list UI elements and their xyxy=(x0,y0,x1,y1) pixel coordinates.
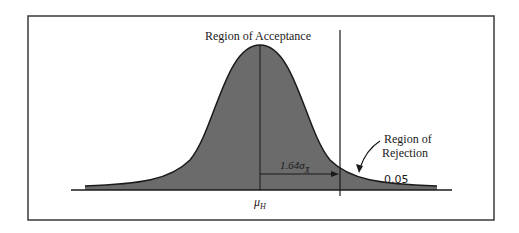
rejection-label-line2: Rejection xyxy=(382,146,428,160)
alpha-label: 0.05 xyxy=(384,173,409,186)
mean-label: μH xyxy=(253,195,267,211)
mean-label-sub: H xyxy=(259,202,267,211)
acceptance-label: Region of Acceptance xyxy=(205,29,311,43)
rejection-pointer-arrow-icon xyxy=(356,164,363,173)
rejection-label-line1: Region of xyxy=(384,132,432,146)
mean-label-main: μ xyxy=(253,195,260,209)
rejection-pointer-line xyxy=(360,141,380,168)
normal-curve-area xyxy=(85,45,437,190)
distance-label-main: 1.64σ xyxy=(280,159,305,171)
hypothesis-test-diagram: Region of Acceptance Region of Rejection… xyxy=(0,0,519,233)
